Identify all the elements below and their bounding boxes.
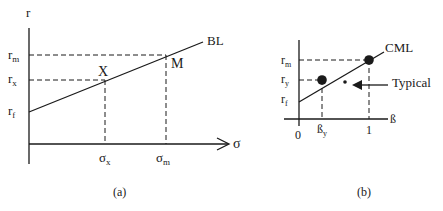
b-tick-rm: rm — [281, 53, 292, 69]
a-bl-line — [29, 42, 203, 112]
a-tick-sx: σx — [99, 150, 111, 167]
b-tick-origin: 0 — [295, 128, 301, 142]
b-tick-one: 1 — [366, 123, 372, 137]
a-x-axis-label: σ — [233, 136, 241, 151]
b-tick-ry: ry — [281, 72, 289, 88]
panel-b: CML Typical ß rm ry rf 0 ßy 1 (b) — [281, 40, 431, 199]
b-caption: (b) — [357, 185, 371, 199]
a-caption: (a) — [113, 185, 126, 199]
a-point-m: M — [171, 56, 184, 71]
diagram-canvas: r σ BL rm rx rf σx σm X M (a) CML Typica… — [0, 0, 443, 211]
a-bl-label: BL — [207, 33, 224, 48]
a-tick-rm: rm — [8, 47, 19, 64]
b-point-m — [364, 55, 374, 65]
b-point-typical — [343, 80, 347, 84]
b-typical-label: Typical — [392, 75, 431, 90]
a-tick-sm: σm — [156, 150, 170, 167]
a-tick-rx: rx — [8, 71, 17, 88]
a-point-x: X — [98, 64, 108, 79]
b-point-y — [317, 75, 327, 85]
a-y-axis-label: r — [26, 5, 31, 20]
b-typical-arrowhead-icon — [352, 80, 362, 90]
panel-a: r σ BL rm rx rf σx σm X M (a) — [8, 5, 241, 199]
b-cml-label: CML — [385, 40, 413, 55]
b-x-axis-label: ß — [390, 112, 396, 126]
b-tick-by: ßy — [317, 122, 327, 138]
b-tick-rf: rf — [281, 92, 288, 108]
a-tick-rf: rf — [8, 103, 15, 120]
